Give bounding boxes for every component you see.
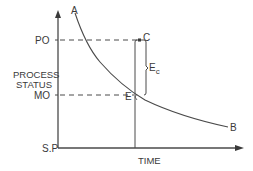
x-axis-arrow-icon — [235, 145, 244, 151]
label-ec-subscript: c — [156, 67, 160, 76]
diagram-canvas: A B C E Ec PO MO S.P PROCESS STATUS TIME — [0, 0, 253, 171]
label-ec: Ec — [149, 62, 160, 76]
level-sp-label: S.P — [42, 143, 58, 154]
label-e: E — [125, 91, 132, 102]
y-axis-label-line2: STATUS — [16, 79, 52, 90]
level-mo-label: MO — [34, 90, 50, 101]
label-b: B — [230, 122, 237, 133]
error-bracket — [135, 40, 148, 95]
level-po-label: PO — [35, 35, 50, 46]
x-axis-label: TIME — [138, 155, 161, 166]
label-a: A — [71, 5, 78, 16]
label-c: C — [143, 32, 150, 43]
x-axis — [58, 145, 244, 151]
y-axis-arrow-icon — [55, 10, 61, 18]
